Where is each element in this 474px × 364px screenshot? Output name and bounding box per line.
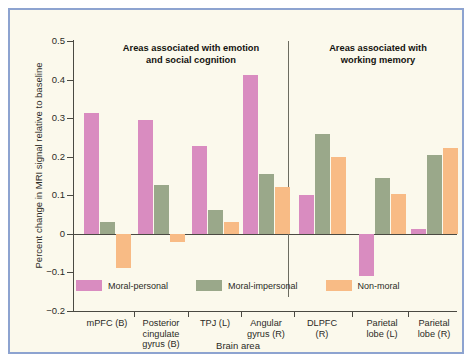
legend-label-moral-personal: Moral-personal — [108, 281, 168, 291]
bar-moral-personal-parietal-lobe-l — [359, 234, 374, 276]
bar-moral-impersonal-parietal-lobe-l — [375, 178, 390, 234]
chart-legend: Moral-personal Moral-impersonal Non-mora… — [76, 280, 400, 291]
y-tick — [67, 195, 74, 196]
y-tick-label-text: 0.5 — [20, 36, 65, 46]
bar-moral-impersonal-dlpfc-r — [315, 134, 330, 234]
y-tick-label-text: 0.4 — [20, 75, 65, 85]
x-category-label-line: (R) — [288, 329, 356, 340]
panel-title-working-memory-line2: working memory — [302, 55, 454, 67]
y-tick-label: 0.5 — [20, 36, 65, 46]
x-axis-line — [73, 311, 457, 312]
x-tick — [294, 311, 295, 317]
zero-baseline — [73, 234, 457, 235]
y-tick — [67, 234, 74, 235]
bar-moral-personal-parietal-lobe-r — [411, 229, 426, 234]
bar-moral-personal-angular-gyrus-r — [243, 75, 258, 234]
x-axis-label: Brain area — [10, 340, 466, 351]
legend-swatch-non-moral — [326, 280, 352, 291]
x-category-label-line: lobe (R) — [400, 329, 468, 340]
x-tick — [188, 311, 189, 317]
panel-title-emotion: Areas associated with emotion and social… — [96, 43, 286, 66]
y-tick — [67, 272, 74, 273]
bar-moral-impersonal-angular-gyrus-r — [259, 174, 274, 234]
panel-title-working-memory: Areas associated with working memory — [302, 43, 454, 66]
bar-moral-impersonal-posterior-cingulate-gyrus-b — [154, 185, 169, 234]
y-tick-label: 0.2 — [20, 152, 65, 162]
bar-moral-personal-dlpfc-r — [299, 195, 314, 234]
legend-item-moral-impersonal: Moral-impersonal — [196, 280, 298, 291]
figure-panel: Percent change in MRI signal relative to… — [8, 8, 464, 354]
y-tick-label-text: 0.3 — [20, 113, 65, 123]
x-tick — [352, 311, 353, 317]
y-axis-label: Percent change in MRI signal relative to… — [33, 56, 44, 276]
legend-item-moral-personal: Moral-personal — [76, 280, 168, 291]
bar-moral-personal-tpj-l — [192, 146, 207, 234]
y-tick — [67, 311, 74, 312]
y-tick-label: 0.3 — [20, 113, 65, 123]
bar-moral-impersonal-mpfc-b — [100, 222, 115, 234]
legend-swatch-moral-personal — [76, 280, 102, 291]
x-category-label-line: DLPFC — [288, 318, 356, 329]
bar-non-moral-dlpfc-r — [331, 157, 346, 234]
y-tick-label: 0.1 — [20, 190, 65, 200]
bar-non-moral-tpj-l — [224, 222, 239, 234]
y-tick — [67, 118, 74, 119]
panel-title-emotion-line2: and social cognition — [96, 55, 286, 67]
y-tick-label-text: 0 — [20, 229, 65, 239]
y-tick — [67, 157, 74, 158]
legend-label-moral-impersonal: Moral-impersonal — [228, 281, 298, 291]
x-tick — [241, 311, 242, 317]
bar-non-moral-mpfc-b — [116, 234, 131, 268]
panel-title-emotion-line1: Areas associated with emotion — [96, 43, 286, 55]
y-tick-label: −0.1 — [20, 267, 65, 277]
x-category-label-line: Parietal — [400, 318, 468, 329]
y-tick-label: −0.2 — [20, 306, 65, 316]
bar-moral-personal-mpfc-b — [84, 113, 99, 234]
legend-label-non-moral: Non-moral — [358, 281, 400, 291]
bar-non-moral-posterior-cingulate-gyrus-b — [170, 234, 185, 242]
y-tick-label: 0.4 — [20, 75, 65, 85]
bar-non-moral-parietal-lobe-r — [443, 148, 458, 234]
x-category-label-dlpfc-r: DLPFC(R) — [288, 318, 356, 339]
y-tick-label-text: −0.1 — [20, 267, 65, 277]
y-tick-label-text: 0.2 — [20, 152, 65, 162]
y-tick-label-text: −0.2 — [20, 306, 65, 316]
x-category-label-line: cingulate — [127, 329, 195, 340]
bar-moral-impersonal-parietal-lobe-r — [427, 155, 442, 234]
x-tick — [134, 311, 135, 317]
x-category-label-parietal-lobe-r: Parietallobe (R) — [400, 318, 468, 339]
x-tick — [408, 311, 409, 317]
bar-non-moral-angular-gyrus-r — [275, 187, 290, 234]
panel-title-working-memory-line1: Areas associated with — [302, 43, 454, 55]
legend-swatch-moral-impersonal — [196, 280, 222, 291]
y-tick — [67, 41, 74, 42]
bar-non-moral-parietal-lobe-l — [391, 194, 406, 234]
panel-divider — [288, 41, 289, 297]
bar-moral-personal-posterior-cingulate-gyrus-b — [138, 120, 153, 234]
y-tick-label-text: 0.1 — [20, 190, 65, 200]
y-tick — [67, 80, 74, 81]
y-tick-label: 0 — [20, 229, 65, 239]
legend-item-non-moral: Non-moral — [326, 280, 400, 291]
y-axis-line — [73, 40, 74, 312]
bar-moral-impersonal-tpj-l — [208, 210, 223, 234]
